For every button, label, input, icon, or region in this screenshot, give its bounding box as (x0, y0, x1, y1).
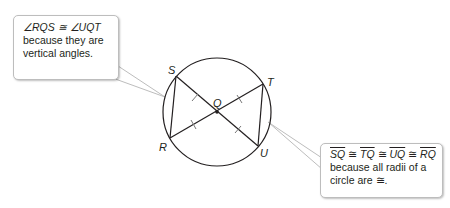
label-S: S (168, 64, 176, 76)
callout-left-line1: ∠RQS ≅ ∠UQT (23, 21, 112, 34)
callout-left-line2: because they are (23, 34, 112, 47)
radii-congruent-callout: SQ ≅ TQ ≅ UQ ≅ RQ because all radii of a… (320, 143, 443, 198)
segment-SQ-label: SQ (330, 148, 345, 160)
congruent-symbol: ≅ (408, 148, 417, 160)
label-Q: Q (213, 97, 222, 109)
vertical-angles-callout: ∠RQS ≅ ∠UQT because they are vertical an… (13, 15, 119, 80)
segment-TU (258, 84, 263, 146)
label-R: R (159, 141, 167, 153)
callout-right-line2: because all radii of a (330, 161, 436, 174)
tick-mark-SQ (192, 94, 198, 101)
callout-right-line1: SQ ≅ TQ ≅ UQ ≅ RQ (330, 148, 436, 161)
callout-right-line3: circle are ≅. (330, 174, 436, 187)
tick-mark-RQ (191, 120, 196, 129)
callout-left-line3: vertical angles. (23, 47, 112, 60)
center-point-Q (215, 110, 219, 114)
congruent-symbol: ≅ (378, 148, 387, 160)
segment-SR (170, 76, 176, 138)
label-U: U (260, 147, 268, 159)
label-T: T (267, 76, 275, 88)
congruent-symbol: ≅ (348, 148, 357, 160)
segment-TQ-label: TQ (360, 148, 375, 160)
segment-UQ-label: UQ (389, 148, 405, 160)
segment-RQ-label: RQ (420, 148, 436, 160)
